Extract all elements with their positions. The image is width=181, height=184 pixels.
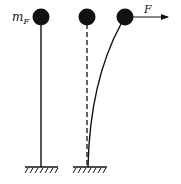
- mass-ball-deflected: [117, 9, 134, 26]
- panel-reference: [79, 9, 96, 168]
- mass-ball: [33, 9, 50, 26]
- mass-ball-reference: [79, 9, 96, 26]
- ground-support-left: [25, 167, 58, 173]
- cantilever-diagram: mF F: [0, 0, 181, 184]
- ground-hatching: [73, 168, 106, 173]
- rod-curved: [88, 24, 121, 167]
- ground-support-right: [73, 167, 107, 173]
- ground-hatching: [25, 168, 58, 173]
- force-label: F: [143, 3, 152, 16]
- mass-label: mF: [12, 10, 29, 26]
- panel-deflected: F: [88, 3, 168, 167]
- panel-upright: mF: [12, 9, 58, 174]
